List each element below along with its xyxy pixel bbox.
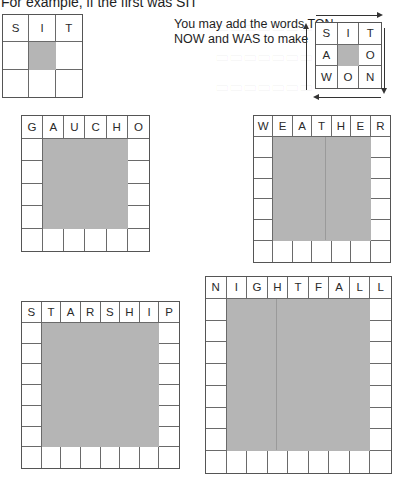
letter-cell[interactable]	[22, 406, 42, 427]
letter-cell[interactable]: T	[56, 15, 82, 42]
letter-cell[interactable]	[371, 137, 390, 158]
letter-cell[interactable]	[206, 451, 227, 473]
letter-cell[interactable]: T	[42, 302, 62, 323]
letter-cell[interactable]: L	[350, 277, 371, 299]
letter-cell[interactable]	[85, 229, 106, 252]
letter-cell[interactable]: S	[316, 23, 338, 45]
letter-cell[interactable]	[370, 408, 391, 430]
letter-cell[interactable]	[273, 241, 292, 262]
letter-cell[interactable]	[140, 447, 160, 468]
letter-cell[interactable]	[254, 199, 273, 220]
letter-cell[interactable]	[159, 364, 179, 385]
letter-cell[interactable]	[254, 179, 273, 200]
letter-cell[interactable]	[371, 220, 390, 241]
letter-cell[interactable]	[370, 386, 391, 408]
letter-cell[interactable]: A	[293, 116, 312, 137]
letter-cell[interactable]	[312, 241, 331, 262]
letter-cell[interactable]: T	[288, 277, 309, 299]
letter-cell[interactable]	[293, 241, 312, 262]
letter-cell[interactable]	[350, 451, 371, 473]
letter-cell[interactable]	[101, 447, 121, 468]
letter-cell[interactable]	[42, 447, 62, 468]
letter-cell[interactable]: R	[371, 116, 390, 137]
letter-cell[interactable]	[370, 321, 391, 343]
letter-cell[interactable]: L	[370, 277, 391, 299]
letter-cell[interactable]: G	[247, 277, 268, 299]
letter-cell[interactable]: F	[309, 277, 330, 299]
letter-cell[interactable]	[3, 42, 29, 69]
letter-cell[interactable]: S	[22, 302, 42, 323]
letter-cell[interactable]	[371, 158, 390, 179]
letter-cell[interactable]	[22, 229, 43, 252]
letter-cell[interactable]	[64, 229, 85, 252]
letter-cell[interactable]	[22, 427, 42, 448]
letter-cell[interactable]	[227, 451, 248, 473]
letter-cell[interactable]	[22, 364, 42, 385]
letter-cell[interactable]: H	[107, 116, 128, 139]
letter-cell[interactable]	[254, 137, 273, 158]
letter-cell[interactable]	[206, 386, 227, 408]
letter-cell[interactable]	[29, 70, 55, 97]
letter-cell[interactable]	[159, 447, 179, 468]
letter-cell[interactable]	[370, 451, 391, 473]
letter-cell[interactable]	[128, 229, 149, 252]
letter-cell[interactable]	[351, 241, 370, 262]
letter-cell[interactable]	[22, 161, 43, 184]
letter-cell[interactable]: O	[338, 66, 360, 88]
letter-cell[interactable]	[254, 158, 273, 179]
letter-cell[interactable]: T	[312, 116, 331, 137]
letter-cell[interactable]	[56, 42, 82, 69]
letter-cell[interactable]: A	[43, 116, 64, 139]
letter-cell[interactable]	[254, 220, 273, 241]
letter-cell[interactable]	[159, 344, 179, 365]
letter-cell[interactable]	[371, 241, 390, 262]
letter-cell[interactable]	[206, 299, 227, 321]
letter-cell[interactable]: A	[61, 302, 81, 323]
letter-cell[interactable]: S	[101, 302, 121, 323]
letter-cell[interactable]: P	[159, 302, 179, 323]
letter-cell[interactable]: W	[254, 116, 273, 137]
letter-cell[interactable]	[56, 70, 82, 97]
letter-cell[interactable]	[107, 229, 128, 252]
letter-cell[interactable]	[22, 385, 42, 406]
letter-cell[interactable]	[247, 451, 268, 473]
letter-cell[interactable]: O	[128, 116, 149, 139]
letter-cell[interactable]: N	[359, 66, 381, 88]
letter-cell[interactable]	[128, 139, 149, 162]
letter-cell[interactable]	[206, 408, 227, 430]
letter-cell[interactable]	[309, 451, 330, 473]
letter-cell[interactable]	[22, 447, 42, 468]
letter-cell[interactable]	[159, 406, 179, 427]
letter-cell[interactable]: A	[329, 277, 350, 299]
letter-cell[interactable]: A	[316, 45, 338, 67]
letter-cell[interactable]: I	[29, 15, 55, 42]
letter-cell[interactable]	[128, 184, 149, 207]
letter-cell[interactable]: U	[64, 116, 85, 139]
letter-cell[interactable]	[268, 451, 289, 473]
letter-cell[interactable]	[206, 364, 227, 386]
letter-cell[interactable]: H	[120, 302, 140, 323]
letter-cell[interactable]: N	[206, 277, 227, 299]
letter-cell[interactable]	[329, 451, 350, 473]
letter-cell[interactable]: E	[351, 116, 370, 137]
letter-cell[interactable]: R	[81, 302, 101, 323]
letter-cell[interactable]: H	[268, 277, 289, 299]
letter-cell[interactable]	[128, 206, 149, 229]
letter-cell[interactable]	[254, 241, 273, 262]
letter-cell[interactable]	[22, 139, 43, 162]
letter-cell[interactable]	[61, 447, 81, 468]
letter-cell[interactable]	[120, 447, 140, 468]
letter-cell[interactable]	[288, 451, 309, 473]
letter-cell[interactable]	[206, 342, 227, 364]
letter-cell[interactable]: I	[227, 277, 248, 299]
letter-cell[interactable]	[370, 342, 391, 364]
letter-cell[interactable]	[370, 364, 391, 386]
letter-cell[interactable]	[370, 299, 391, 321]
letter-cell[interactable]	[43, 229, 64, 252]
letter-cell[interactable]: I	[338, 23, 360, 45]
letter-cell[interactable]	[22, 206, 43, 229]
letter-cell[interactable]: S	[3, 15, 29, 42]
letter-cell[interactable]	[332, 241, 351, 262]
letter-cell[interactable]	[159, 427, 179, 448]
letter-cell[interactable]: H	[332, 116, 351, 137]
